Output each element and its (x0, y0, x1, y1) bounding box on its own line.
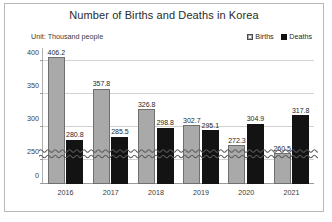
bar-label-births-2017: 357.8 (93, 80, 111, 87)
bar-group-2018: 326.8298.8 (133, 48, 178, 184)
bar-births-2017[interactable] (93, 89, 110, 184)
bar-deaths-2018[interactable] (157, 128, 174, 184)
bar-label-births-2021: 260.5 (273, 145, 291, 152)
bar-group-2021: 260.5317.8 (269, 48, 314, 184)
bar-deaths-2019[interactable] (202, 130, 219, 184)
bar-label-deaths-2021: 317.8 (292, 107, 310, 114)
bar-label-deaths-2018: 298.8 (156, 119, 174, 126)
bar-group-2017: 357.8285.5 (88, 48, 133, 184)
x-tick-label-2019: 2019 (193, 188, 209, 197)
bar-births-2018[interactable] (138, 109, 155, 184)
y-tick-label-300: 300 (27, 114, 39, 123)
bar-deaths-2021[interactable] (292, 115, 309, 184)
bar-label-deaths-2017: 285.5 (111, 128, 129, 135)
y-tick-label-250: 250 (27, 147, 39, 156)
bar-group-2020: 272.3304.9 (224, 48, 269, 184)
bar-label-births-2020: 272.3 (228, 137, 246, 144)
y-tick-label-0: 0 (35, 171, 39, 180)
chart-frame: Number of Births and Deaths in Korea Uni… (4, 3, 324, 212)
bar-label-births-2019: 302.7 (183, 117, 201, 124)
bar-label-deaths-2020: 304.9 (247, 115, 265, 122)
bar-births-2016[interactable] (48, 57, 65, 184)
plot-area: 0250300350400 406.2280.8357.8285.5326.82… (43, 48, 314, 184)
x-tick-label-2016: 2016 (58, 188, 74, 197)
bar-label-births-2016: 406.2 (48, 49, 66, 56)
bar-births-2021[interactable] (274, 153, 291, 184)
legend-label-births: Births (255, 32, 273, 41)
legend-label-deaths: Deaths (289, 32, 312, 41)
bar-deaths-2020[interactable] (247, 124, 264, 184)
bar-label-deaths-2019: 295.1 (202, 122, 220, 129)
x-tick-label-2018: 2018 (148, 188, 164, 197)
births-swatch-icon (247, 34, 253, 40)
unit-note: Unit: Thousand people (31, 32, 103, 41)
legend-item-births: Births (247, 32, 274, 41)
bar-deaths-2016[interactable] (66, 140, 83, 184)
x-tick-label-2020: 2020 (238, 188, 254, 197)
bar-label-deaths-2016: 280.8 (66, 131, 84, 138)
x-tick-label-2021: 2021 (283, 188, 299, 197)
chart-title: Number of Births and Deaths in Korea (5, 9, 323, 21)
y-tick-label-400: 400 (27, 48, 39, 57)
bar-births-2020[interactable] (228, 145, 245, 184)
deaths-swatch-icon (281, 34, 287, 40)
bar-group-2019: 302.7295.1 (179, 48, 224, 184)
x-axis-labels: 201620172018201920202021 (43, 188, 314, 202)
x-tick-label-2017: 2017 (103, 188, 119, 197)
bar-group-2016: 406.2280.8 (43, 48, 88, 184)
bar-label-births-2018: 326.8 (138, 101, 156, 108)
bar-births-2019[interactable] (183, 125, 200, 184)
legend-item-deaths: Deaths (281, 32, 312, 41)
bar-deaths-2017[interactable] (111, 137, 128, 184)
y-tick-label-350: 350 (27, 81, 39, 90)
chart-legend: Births Deaths (247, 32, 312, 41)
